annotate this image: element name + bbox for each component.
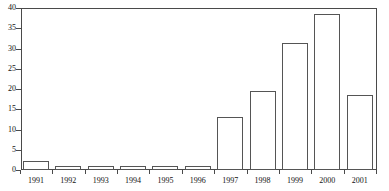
y-axis-tick-label: 10 bbox=[0, 126, 16, 134]
y-axis-tick-label-text: 30 bbox=[2, 45, 16, 53]
y-axis-tick-label: 25 bbox=[0, 65, 16, 73]
y-axis-tick-label-text: 40 bbox=[2, 4, 16, 12]
y-axis-tick-label-text: 15 bbox=[2, 105, 16, 113]
y-axis-tick-label-text: 25 bbox=[2, 65, 16, 73]
x-axis-tick bbox=[52, 170, 53, 174]
x-axis-tick-label: 2001 bbox=[343, 176, 377, 185]
x-axis-tick-label: 2000 bbox=[310, 176, 344, 185]
y-axis-tick-label: 35 bbox=[0, 24, 16, 32]
y-axis-tick-label: 20 bbox=[0, 85, 16, 93]
bar bbox=[120, 166, 146, 170]
bar bbox=[88, 166, 114, 170]
x-axis-tick bbox=[247, 170, 248, 174]
x-axis-tick-label: 1999 bbox=[278, 176, 312, 185]
y-axis-tick-label: 0 bbox=[0, 166, 16, 174]
x-axis-tick bbox=[376, 170, 377, 174]
x-axis-tick bbox=[117, 170, 118, 174]
x-axis-tick-label: 1991 bbox=[19, 176, 53, 185]
y-axis-tick-label: 15 bbox=[0, 105, 16, 113]
y-axis-tick-label: 30 bbox=[0, 45, 16, 53]
x-axis-tick bbox=[279, 170, 280, 174]
x-axis-tick bbox=[20, 170, 21, 174]
x-axis-tick-label: 1996 bbox=[181, 176, 215, 185]
y-axis-tick-label-text: 20 bbox=[2, 85, 16, 93]
bars-layer bbox=[22, 9, 376, 170]
x-axis-tick-label: 1992 bbox=[51, 176, 85, 185]
x-axis-tick bbox=[182, 170, 183, 174]
bar bbox=[152, 166, 178, 170]
x-axis-tick bbox=[85, 170, 86, 174]
bar bbox=[217, 117, 243, 170]
x-axis-tick-label: 1998 bbox=[246, 176, 280, 185]
bar bbox=[282, 43, 308, 170]
x-axis-tick bbox=[149, 170, 150, 174]
bar bbox=[347, 95, 373, 170]
x-axis-tick bbox=[311, 170, 312, 174]
y-axis-tick-label-text: 10 bbox=[2, 126, 16, 134]
y-axis-tick-label-text: 35 bbox=[2, 24, 16, 32]
x-axis-tick bbox=[214, 170, 215, 174]
bar bbox=[55, 166, 81, 170]
y-axis-tick-label: 40 bbox=[0, 4, 16, 12]
y-axis-tick-label-text: 0 bbox=[2, 166, 16, 174]
x-axis-tick-label: 1997 bbox=[213, 176, 247, 185]
x-axis-tick-label: 1993 bbox=[84, 176, 118, 185]
x-axis-tick bbox=[344, 170, 345, 174]
y-axis-tick-label: 5 bbox=[0, 146, 16, 154]
x-axis-tick-label: 1995 bbox=[148, 176, 182, 185]
y-axis-tick-label-text: 5 bbox=[2, 146, 16, 154]
bar-chart: 0510152025303540 19911992199319941995199… bbox=[0, 0, 389, 191]
x-axis-tick-label: 1994 bbox=[116, 176, 150, 185]
bar bbox=[250, 91, 276, 170]
bar bbox=[23, 161, 49, 170]
bar bbox=[185, 166, 211, 170]
bar bbox=[314, 14, 340, 170]
